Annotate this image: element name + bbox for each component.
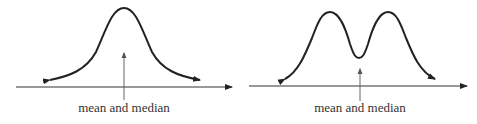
bimodal-diagram: mean and median [249,12,467,115]
unimodal-diagram: mean and median [16,8,232,115]
distribution-diagrams: mean and median mean and median [0,0,477,124]
mean-median-label: mean and median [78,100,170,115]
bimodal-curve [285,12,435,79]
mean-median-label: mean and median [314,100,406,115]
bell-curve [50,8,200,80]
